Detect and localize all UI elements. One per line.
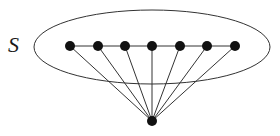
set-label: S — [8, 32, 19, 58]
path-node — [147, 41, 157, 51]
path-node — [120, 41, 130, 51]
path-node — [65, 41, 75, 51]
spoke-edges — [70, 46, 235, 121]
apex-node — [147, 116, 157, 126]
graph-diagram — [0, 0, 280, 136]
path-node — [93, 41, 103, 51]
path-node — [202, 41, 212, 51]
path-node — [230, 41, 240, 51]
path-node — [175, 41, 185, 51]
